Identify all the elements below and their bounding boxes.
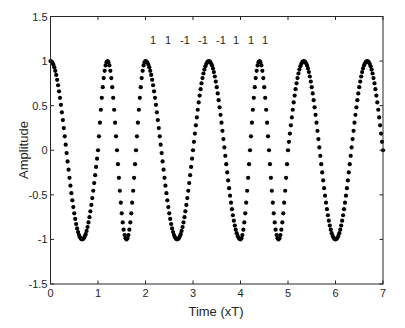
data-point: [372, 81, 376, 85]
data-point: [98, 121, 102, 125]
data-point: [133, 162, 137, 166]
data-point: [53, 69, 57, 73]
data-point: [161, 159, 165, 163]
data-point: [249, 134, 253, 138]
data-point: [114, 134, 118, 138]
data-point: [224, 162, 228, 166]
data-point: [117, 176, 121, 180]
data-point: [255, 69, 259, 73]
x-axis-label: Time (xT): [188, 304, 243, 319]
data-point: [191, 148, 195, 152]
data-point: [65, 151, 69, 155]
data-point: [346, 178, 350, 182]
data-point: [218, 113, 222, 117]
data-point: [310, 85, 314, 89]
data-point: [259, 63, 263, 67]
x-tick-label: 2: [142, 287, 148, 299]
data-point: [338, 228, 342, 232]
data-point: [163, 184, 167, 188]
chart-figure: 01234567 1.510.50-0.5-1-1.5 11-1-1-1111 …: [0, 0, 405, 328]
data-point: [63, 134, 67, 138]
bit-label: 1: [248, 34, 254, 46]
data-point: [140, 76, 144, 80]
data-point: [313, 105, 317, 109]
data-point: [286, 148, 290, 152]
data-point: [170, 226, 174, 230]
bit-label: -1: [216, 34, 226, 46]
data-point: [356, 91, 360, 95]
x-tick-label: 0: [47, 287, 53, 299]
data-point: [269, 176, 273, 180]
data-point: [169, 222, 173, 226]
y-tick-label: -1.5: [29, 278, 48, 290]
data-point: [198, 94, 202, 98]
data-point: [280, 220, 284, 224]
data-point: [231, 213, 235, 217]
data-point: [252, 96, 256, 100]
data-point: [74, 222, 78, 226]
data-point: [322, 186, 326, 190]
data-point: [312, 98, 316, 102]
x-tick-label: 1: [95, 287, 101, 299]
data-point: [211, 66, 215, 70]
data-point: [260, 69, 264, 73]
data-point: [287, 140, 291, 144]
x-tick-label: 4: [237, 287, 243, 299]
data-point: [165, 198, 169, 202]
data-point: [306, 66, 310, 70]
data-point: [262, 85, 266, 89]
data-point: [87, 215, 91, 219]
y-tick-label: -1: [38, 233, 48, 245]
data-point: [89, 203, 93, 207]
data-point: [308, 74, 312, 78]
data-point: [289, 123, 293, 127]
data-point: [233, 223, 237, 227]
data-point: [219, 121, 223, 125]
data-point: [353, 113, 357, 117]
data-point: [71, 205, 75, 209]
data-point: [350, 145, 354, 149]
data-point: [221, 137, 225, 141]
data-point: [166, 205, 170, 209]
data-point: [294, 87, 298, 91]
data-point: [265, 121, 269, 125]
data-point: [58, 96, 62, 100]
data-point: [128, 220, 132, 224]
data-point: [248, 148, 252, 152]
data-point: [380, 140, 384, 144]
data-point: [245, 189, 249, 193]
data-point: [294, 81, 298, 85]
data-point: [293, 94, 297, 98]
data-point: [136, 121, 140, 125]
data-point: [264, 108, 268, 112]
data-point: [164, 191, 168, 195]
data-point: [225, 170, 229, 174]
x-tick-label: 3: [190, 287, 196, 299]
data-point: [376, 108, 380, 112]
data-point: [59, 103, 63, 107]
data-point: [273, 220, 277, 224]
data-point: [320, 170, 324, 174]
data-point: [251, 108, 255, 112]
data-point: [217, 98, 221, 102]
data-point: [241, 228, 245, 232]
y-tick-label: 1.5: [32, 11, 47, 23]
data-point: [285, 162, 289, 166]
data-point: [349, 154, 353, 158]
data-point: [326, 213, 330, 217]
data-point: [291, 108, 295, 112]
data-point: [223, 154, 227, 158]
data-point: [107, 63, 111, 67]
data-point: [111, 96, 115, 100]
data-point: [91, 189, 95, 193]
y-tick-label: 0: [41, 144, 47, 156]
data-point: [342, 207, 346, 211]
data-point: [108, 69, 112, 73]
data-point: [197, 100, 201, 104]
data-point: [86, 220, 90, 224]
data-point: [246, 176, 250, 180]
data-point: [73, 217, 77, 221]
data-point: [54, 73, 58, 77]
data-point: [229, 201, 233, 205]
data-point: [55, 78, 59, 82]
